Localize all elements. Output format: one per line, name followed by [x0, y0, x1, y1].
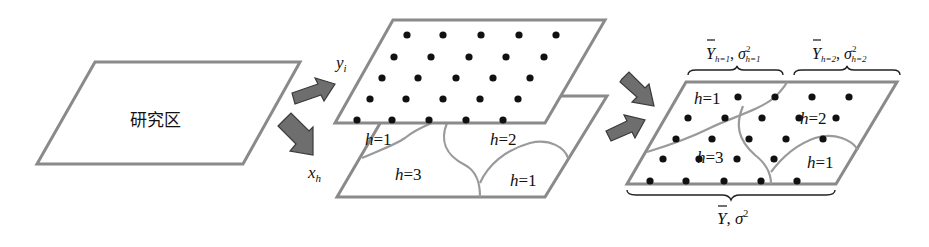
brace-population: Y, σ2	[627, 190, 835, 228]
brace-icon	[688, 66, 783, 75]
svg-text:yi: yi	[334, 53, 347, 74]
brace-icon	[627, 190, 835, 200]
combined-layer: h=1 h=2 h=3 h=1	[627, 82, 897, 185]
arrow-to-strata-layer	[278, 113, 313, 155]
strata-label-h1-right: h=1	[510, 171, 537, 190]
brace-stratum-1: Yh=1, σ2h=1	[688, 40, 783, 75]
stratified-sampling-diagram: 研究区 yi xh h=1 h=2 h=3 h=1	[0, 0, 929, 247]
stratum-1-stats: Yh=1, σ2h=1	[706, 44, 760, 64]
strata-label-h1-left: h=1	[365, 130, 392, 149]
population-stats: Y, σ2	[717, 208, 748, 228]
arrow-up-right-icon	[606, 115, 645, 141]
strata-label-h3: h=3	[395, 165, 422, 184]
arrow-from-sample-layer	[620, 72, 654, 106]
study-area: 研究区	[37, 62, 300, 164]
brace-icon	[794, 66, 900, 75]
combined-label-h2: h=2	[800, 109, 827, 128]
label-x-h: xh	[307, 163, 322, 184]
strata-label-h2: h=2	[490, 130, 517, 149]
study-area-label: 研究区	[130, 110, 181, 130]
y-subscript: i	[344, 62, 347, 74]
combined-layer-parallelogram	[627, 82, 897, 184]
arrow-down-right-icon	[620, 72, 654, 106]
combined-label-h3: h=3	[697, 148, 724, 167]
svg-text:xh: xh	[307, 163, 322, 184]
arrow-to-sample-layer	[292, 78, 335, 104]
combined-label-h1-left: h=1	[694, 89, 721, 108]
arrow-down-right-icon	[278, 113, 313, 155]
arrow-up-right-icon	[292, 78, 335, 104]
y-variable: y	[334, 53, 344, 72]
brace-stratum-2: Yh=2, σ2h=2	[794, 40, 900, 75]
stratum-2-stats: Yh=2, σ2h=2	[812, 44, 867, 64]
label-y-i: yi	[334, 53, 347, 74]
combined-label-h1-right: h=1	[807, 153, 834, 172]
x-subscript: h	[316, 172, 322, 184]
arrow-from-strata-layer	[606, 115, 645, 141]
